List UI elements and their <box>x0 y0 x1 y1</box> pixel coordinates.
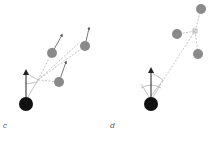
panel-label-c: c <box>3 121 7 130</box>
neighbor-icon <box>47 48 57 58</box>
neighbor-icon <box>193 49 203 59</box>
neighbor-icon <box>80 41 90 51</box>
neighbor-icon <box>54 77 64 87</box>
panel-c <box>19 28 90 111</box>
diagram-canvas <box>0 0 218 142</box>
neighbor-icon <box>172 29 182 39</box>
panel-label-d: d <box>110 121 114 130</box>
figure: c d <box>0 0 218 142</box>
agent-icon <box>19 97 33 111</box>
panel-d <box>141 4 206 111</box>
agent-icon <box>144 97 158 111</box>
neighbor-icon <box>196 4 206 14</box>
